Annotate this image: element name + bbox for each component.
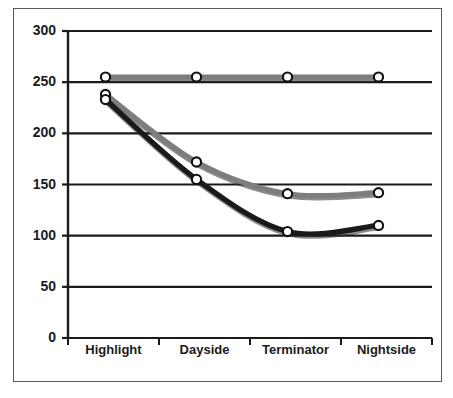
series-line-shadow bbox=[106, 101, 379, 235]
data-point-marker bbox=[101, 72, 110, 81]
axes-group bbox=[62, 31, 68, 338]
series-lines-group bbox=[106, 77, 380, 236]
data-point-marker bbox=[283, 227, 292, 236]
x-axis-label-dayside: Dayside bbox=[159, 342, 250, 357]
data-point-marker bbox=[283, 72, 292, 81]
data-point-marker bbox=[101, 95, 110, 104]
x-axis-label-highlight: Highlight bbox=[68, 342, 159, 357]
x-axis-label-nightside: Nightside bbox=[341, 342, 432, 357]
data-point-marker bbox=[192, 175, 201, 184]
data-point-marker bbox=[283, 189, 292, 198]
data-point-marker bbox=[192, 72, 201, 81]
data-point-marker bbox=[374, 221, 383, 230]
y-axis-label-150: 150 bbox=[12, 176, 56, 192]
data-point-marker bbox=[192, 157, 201, 166]
data-point-marker bbox=[374, 188, 383, 197]
y-axis-label-100: 100 bbox=[12, 227, 56, 243]
x-axis-label-terminator: Terminator bbox=[250, 342, 341, 357]
chart-plot-area bbox=[0, 0, 453, 398]
y-axis-label-50: 50 bbox=[12, 278, 56, 294]
y-axis-label-200: 200 bbox=[12, 124, 56, 140]
data-point-marker bbox=[374, 72, 383, 81]
y-axis-label-300: 300 bbox=[12, 22, 56, 38]
chart-container: 050100150200250300 HighlightDaysideTermi… bbox=[0, 0, 453, 398]
y-axis-label-0: 0 bbox=[12, 329, 56, 345]
y-axis-label-250: 250 bbox=[12, 73, 56, 89]
series-line-series-black bbox=[106, 100, 379, 234]
series-line-series-gray bbox=[106, 94, 379, 195]
